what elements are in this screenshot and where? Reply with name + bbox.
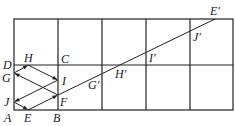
segment-e-f — [28, 96, 57, 111]
label-i: I — [61, 74, 67, 88]
label-g: G — [2, 71, 11, 85]
segment-j-e — [14, 102, 28, 110]
label-c: C — [61, 52, 70, 66]
segment-h-i — [28, 65, 57, 80]
label-j-prime: J′ — [193, 30, 201, 44]
reflection-path — [14, 65, 58, 110]
label-d: D — [2, 58, 12, 72]
label-e: E — [23, 111, 32, 125]
label-a: A — [3, 111, 12, 125]
reflection-diagram: A E B C D H G I J F G′ H′ I′ J′ E′ — [0, 0, 235, 126]
label-i-prime: I′ — [148, 51, 156, 65]
segment-g-h — [14, 66, 28, 74]
label-h-prime: H′ — [114, 67, 127, 81]
label-b: B — [53, 111, 61, 125]
label-g-prime: G′ — [88, 78, 100, 92]
label-j: J — [4, 95, 10, 109]
label-e-prime: E′ — [209, 4, 220, 18]
label-h: H — [23, 51, 34, 65]
unfolded-line — [58, 19, 215, 95]
label-f: F — [59, 95, 68, 109]
